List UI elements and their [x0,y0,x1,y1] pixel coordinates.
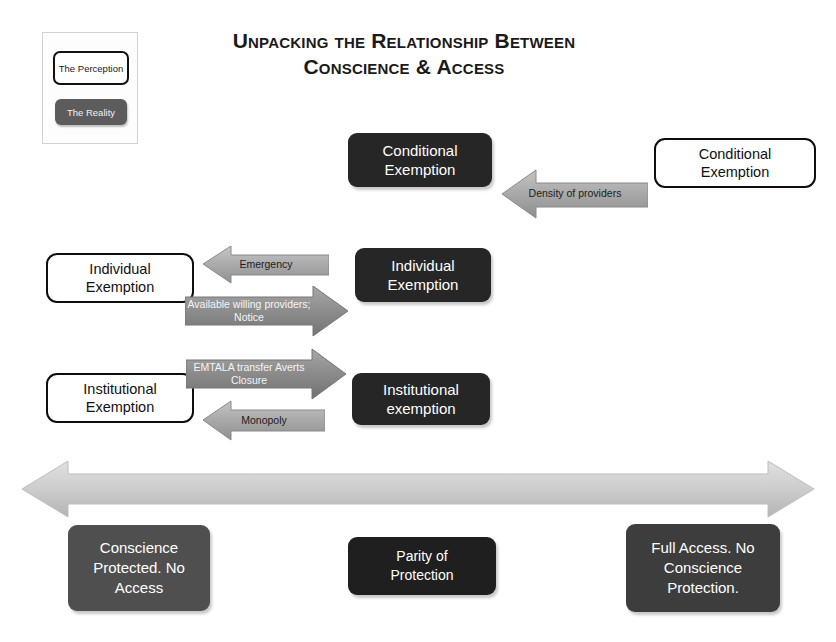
spectrum-right-line-1: Full Access. No [651,538,754,558]
node-institutional-perception-line-1: Institutional [83,380,156,398]
node-institutional-reality-line-2: exemption [383,399,459,418]
node-conditional-perception-line-1: Conditional [699,145,772,163]
node-institutional-reality-line-1: Institutional [383,380,459,399]
double-arrow-icon [22,458,814,520]
node-conditional-perception[interactable]: Conditional Exemption [654,138,816,188]
title-line-2: Conscience & Access [168,54,640,80]
node-institutional-perception[interactable]: Institutional Exemption [46,373,194,423]
spectrum-left-text: Conscience Protected. No Access [93,538,185,598]
spectrum-center-line-2: Protection [390,566,453,585]
spectrum-box-parity-of-protection[interactable]: Parity of Protection [348,537,496,595]
spectrum-center-line-1: Parity of [390,547,453,566]
arrow-density-of-providers[interactable]: Density of providers [502,168,648,220]
spectrum-center-text: Parity of Protection [390,547,453,585]
node-institutional-reality-text: Institutional exemption [383,380,459,418]
node-conditional-reality-line-2: Exemption [382,160,457,179]
node-institutional-reality[interactable]: Institutional exemption [352,373,490,425]
node-conditional-reality[interactable]: Conditional Exemption [348,133,492,187]
spectrum-right-line-3: Protection. [651,578,754,598]
spectrum-left-line-1: Conscience [93,538,185,558]
spectrum-left-line-3: Access [93,578,185,598]
node-conditional-reality-text: Conditional Exemption [382,141,457,179]
node-individual-perception-text: Individual Exemption [86,260,155,296]
spectrum-right-text: Full Access. No Conscience Protection. [651,538,754,598]
arrow-available-willing-providers[interactable]: Available willing providers; Notice [185,283,348,339]
legend-reality-label: The Reality [67,107,115,118]
arrow-left-icon [502,168,648,220]
node-institutional-perception-text: Institutional Exemption [83,380,156,416]
page-title: Unpacking the Relationship Between Consc… [168,28,640,80]
arrow-left-icon [203,244,329,284]
legend: The Perception The Reality [42,32,138,144]
node-conditional-reality-line-1: Conditional [382,141,457,160]
node-individual-perception-line-2: Exemption [86,278,155,296]
arrow-right-icon [185,283,348,339]
arrow-right-icon [186,346,346,402]
legend-reality-swatch: The Reality [55,99,127,125]
node-individual-reality-line-1: Individual [388,256,459,275]
node-individual-reality-text: Individual Exemption [388,256,459,294]
legend-perception-label: The Perception [59,63,123,74]
spectrum-box-full-access[interactable]: Full Access. No Conscience Protection. [626,524,780,612]
spectrum-left-line-2: Protected. No [93,558,185,578]
node-individual-reality-line-2: Exemption [388,275,459,294]
node-individual-perception-line-1: Individual [86,260,155,278]
diagram-canvas: Unpacking the Relationship Between Consc… [0,0,836,642]
spectrum-right-line-2: Conscience [651,558,754,578]
node-individual-reality[interactable]: Individual Exemption [355,248,491,302]
spectrum-axis [22,458,814,520]
arrow-emtala-transfer[interactable]: EMTALA transfer Averts Closure [186,346,346,402]
title-line-1: Unpacking the Relationship Between [168,28,640,54]
spectrum-box-conscience-protected[interactable]: Conscience Protected. No Access [68,525,210,611]
arrow-left-icon [203,399,325,441]
node-institutional-perception-line-2: Exemption [83,398,156,416]
arrow-emergency[interactable]: Emergency [203,244,329,284]
arrow-monopoly[interactable]: Monopoly [203,399,325,441]
node-conditional-perception-line-2: Exemption [699,163,772,181]
legend-perception-swatch: The Perception [53,51,129,85]
node-conditional-perception-text: Conditional Exemption [699,145,772,181]
node-individual-perception[interactable]: Individual Exemption [46,253,194,303]
